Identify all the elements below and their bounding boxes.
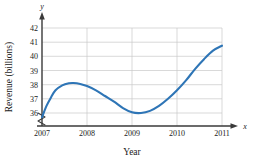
y-axis-variable-label: y — [39, 2, 44, 11]
x-axis-variable-label: x — [242, 122, 247, 131]
revenue-line-chart: 42 41 40 39 38 37 36 2007 2008 2009 2010… — [0, 0, 255, 163]
chart-svg: 42 41 40 39 38 37 36 2007 2008 2009 2010… — [0, 0, 255, 163]
chart-background — [0, 0, 255, 163]
x-tick-label: 2010 — [169, 129, 185, 138]
y-tick-label: 42 — [30, 24, 38, 33]
x-tick-label: 2008 — [79, 129, 95, 138]
x-tick-label: 2009 — [124, 129, 140, 138]
y-tick-label: 39 — [30, 67, 38, 76]
x-axis-title: Year — [123, 147, 141, 157]
y-tick-label: 36 — [30, 109, 38, 118]
y-tick-label: 41 — [30, 38, 38, 47]
x-tick-label: 2007 — [34, 129, 50, 138]
y-axis-title: Revenue (billions) — [4, 42, 15, 112]
y-tick-label: 40 — [30, 52, 38, 61]
y-tick-label: 38 — [30, 81, 38, 90]
y-tick-label: 37 — [30, 95, 38, 104]
x-tick-label: 2011 — [214, 129, 230, 138]
